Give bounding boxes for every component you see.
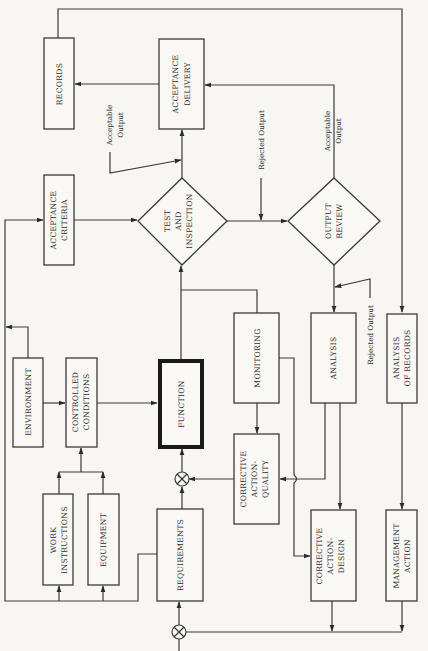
node-work-instructions: WORK INSTRUCTIONS [43, 494, 73, 585]
node-label: CRITERIA [60, 199, 69, 241]
node-environment: ENVIRONMENT [13, 358, 43, 447]
edge-label-acceptable-output-1: Acceptable Output [105, 105, 125, 146]
node-acceptance-criteria: ACCEPTANCE CRITERIA [44, 175, 74, 265]
edge-label-text: Acceptable [105, 105, 114, 146]
node-label: INSTRUCTIONS [60, 506, 69, 574]
edge-label-text: Output [116, 112, 125, 138]
edge-label-text: Rejected Output [366, 305, 375, 365]
edge-label-rejected-output-1: Rejected Output [257, 110, 266, 170]
node-label: ANALYSIS [329, 337, 338, 381]
node-label: ACTION- [326, 537, 335, 575]
node-output-review: OUTPUT REVIEW [288, 178, 380, 265]
node-monitoring: MONITORING [234, 313, 279, 403]
node-label: FUNCTION [177, 380, 186, 428]
node-requirements: REQUIREMENTS [157, 509, 203, 601]
node-label: INSPECTION [185, 193, 194, 248]
node-corrective-action-design: CORRECTIVE ACTION- DESIGN [311, 510, 356, 601]
node-label: ACCEPTANCE [49, 191, 58, 251]
edge-label-text: Rejected Output [257, 110, 266, 170]
node-label: WORK [49, 527, 58, 554]
node-label: ANALYSIS [392, 337, 401, 381]
edge-label-text: Acceptable [323, 111, 332, 152]
edge-rejected-output-leader-2 [335, 279, 370, 298]
node-corrective-action-quality: CORRECTIVE ACTION- QUALITY [234, 434, 279, 524]
node-test-and-inspection: TEST AND INSPECTION [138, 178, 227, 265]
node-records: RECORDS [44, 38, 74, 129]
node-management-action: MANAGEMENT ACTION [386, 510, 417, 601]
node-analysis: ANALYSIS [311, 313, 356, 403]
edge-review-to-delivery [205, 85, 334, 178]
edge-monitoring-to-cad [279, 358, 310, 556]
edge-label-acceptable-output-2: Acceptable Output [323, 111, 343, 152]
node-label: DESIGN [337, 539, 346, 573]
node-function: FUNCTION [160, 361, 202, 447]
node-label: TEST [163, 210, 172, 232]
node-label: CONDITIONS [82, 374, 91, 431]
node-label: ACTION [403, 539, 412, 574]
node-label: AND [174, 211, 183, 231]
quality-flow-diagram: RECORDS ACCEPTANCE DELIVERY ACCEPTANCE C… [0, 0, 428, 651]
node-label: REVIEW [335, 204, 344, 239]
summing-junction-function [175, 472, 189, 486]
edge-label-text: Output [334, 118, 343, 144]
node-label: DELIVERY [183, 62, 192, 106]
node-label: QUALITY [261, 459, 270, 498]
node-label: REQUIREMENTS [176, 519, 185, 591]
summing-junction-requirements [172, 625, 186, 639]
node-analysis-of-records: ANALYSIS OF RECORDS [387, 314, 417, 403]
node-controlled-conditions: CONTROLLED CONDITIONS [66, 358, 97, 447]
node-records-label: RECORDS [55, 63, 64, 105]
node-label: CORRECTIVE [239, 451, 248, 508]
node-label: CONTROLLED [71, 372, 80, 432]
node-label: MONITORING [253, 328, 262, 387]
edge-analysis-to-caq [280, 403, 325, 479]
node-label: EQUIPMENT [99, 513, 108, 567]
node-acceptance-delivery: ACCEPTANCE DELIVERY [159, 39, 204, 129]
edge-function-to-monitoring [181, 290, 257, 313]
node-label: ACTION- [250, 460, 259, 498]
edge-acceptable-output-leader [110, 152, 181, 173]
node-label: OUTPUT [324, 203, 333, 239]
node-label: CORRECTIVE [315, 528, 324, 585]
node-label: ACCEPTANCE [171, 55, 180, 115]
node-label: MANAGEMENT [392, 523, 401, 588]
edge-label-rejected-output-2: Rejected Output [366, 305, 375, 365]
node-label: ENVIRONMENT [24, 368, 33, 436]
edge-environment-to-bus [6, 327, 28, 358]
node-equipment: EQUIPMENT [88, 494, 119, 585]
node-label: OF RECORDS [403, 329, 412, 386]
